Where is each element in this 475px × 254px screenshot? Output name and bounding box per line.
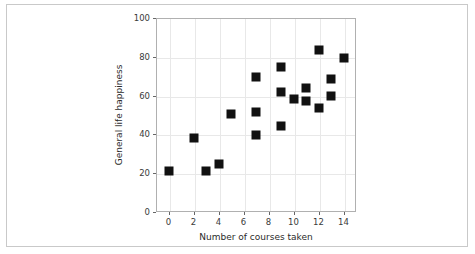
- scatter-point: [277, 87, 286, 96]
- scatter-point: [314, 46, 323, 55]
- scatter-point: [327, 75, 336, 84]
- x-tick-label: 12: [313, 217, 324, 227]
- gridline-vertical: [195, 19, 196, 211]
- scatter-point: [314, 104, 323, 113]
- x-tick-mark: [219, 212, 220, 215]
- y-tick-mark: [153, 57, 156, 58]
- scatter-point: [327, 91, 336, 100]
- x-tick-mark: [269, 212, 270, 215]
- y-tick-label: 0: [126, 207, 150, 217]
- scatter-point: [289, 95, 298, 104]
- y-tick-mark: [153, 134, 156, 135]
- gridline-vertical: [295, 19, 296, 211]
- scatter-point: [214, 159, 223, 168]
- y-tick-label: 40: [126, 129, 150, 139]
- scatter-point: [252, 131, 261, 140]
- scatter-point: [189, 134, 198, 143]
- scatter-point: [227, 110, 236, 119]
- gridline-vertical: [220, 19, 221, 211]
- y-tick-mark: [153, 212, 156, 213]
- y-tick-label: 80: [126, 52, 150, 62]
- x-tick-label: 6: [241, 217, 246, 227]
- y-tick-label: 20: [126, 168, 150, 178]
- scatter-point: [277, 121, 286, 130]
- scatter-point: [302, 83, 311, 92]
- x-tick-label: 8: [266, 217, 271, 227]
- x-tick-label: 14: [338, 217, 349, 227]
- x-tick-mark: [319, 212, 320, 215]
- scatter-point: [277, 63, 286, 72]
- y-tick-label: 60: [126, 91, 150, 101]
- y-tick-mark: [153, 173, 156, 174]
- gridline-vertical: [245, 19, 246, 211]
- y-axis-label: General life happiness: [114, 65, 124, 166]
- y-tick-mark: [153, 96, 156, 97]
- scatter-point: [252, 73, 261, 82]
- gridline-vertical: [170, 19, 171, 211]
- x-axis-label: Number of courses taken: [156, 232, 356, 242]
- gridline-horizontal: [157, 58, 355, 59]
- gridline-vertical: [345, 19, 346, 211]
- y-tick-label: 100: [126, 13, 150, 23]
- scatter-plot-figure: 02468101214020406080100 Number of course…: [0, 0, 475, 254]
- x-tick-mark: [194, 212, 195, 215]
- scatter-point: [339, 53, 348, 62]
- gridline-horizontal: [157, 97, 355, 98]
- gridline-horizontal: [157, 174, 355, 175]
- x-tick-label: 2: [191, 217, 196, 227]
- gridline-vertical: [270, 19, 271, 211]
- x-tick-mark: [294, 212, 295, 215]
- x-tick-mark: [344, 212, 345, 215]
- x-tick-label: 10: [288, 217, 299, 227]
- x-tick-mark: [169, 212, 170, 215]
- x-tick-label: 4: [216, 217, 221, 227]
- x-tick-mark: [244, 212, 245, 215]
- scatter-point: [164, 167, 173, 176]
- scatter-point: [252, 108, 261, 117]
- scatter-point: [302, 97, 311, 106]
- y-tick-mark: [153, 18, 156, 19]
- x-tick-label: 0: [166, 217, 171, 227]
- scatter-point: [202, 167, 211, 176]
